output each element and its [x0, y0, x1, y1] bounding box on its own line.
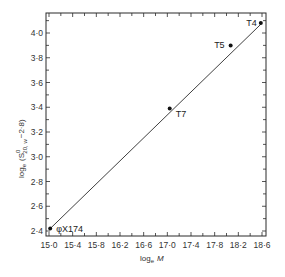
- x-tick-label: 18·6: [253, 240, 270, 250]
- point-label: T4: [246, 18, 257, 28]
- point-label: T7: [176, 109, 187, 119]
- x-tick-label: 15·0: [40, 240, 57, 250]
- y-tick-label: 2·8: [31, 177, 44, 187]
- point-label: T5: [214, 40, 225, 50]
- y-tick-label: 3·6: [31, 78, 44, 88]
- x-tick-label: 17·4: [182, 240, 199, 250]
- data-point: T5: [214, 40, 233, 50]
- point-label: φX174: [56, 224, 83, 234]
- point-marker: [48, 227, 52, 231]
- x-tick-label: 18·2: [230, 240, 247, 250]
- x-tick-label: 16·6: [135, 240, 152, 250]
- x-axis-label: logeM: [140, 254, 164, 264]
- data-point: T4: [246, 18, 263, 28]
- x-tick-label: 17·0: [159, 240, 176, 250]
- y-tick-labels: 2·42·62·83·03·23·43·63·84·0: [31, 28, 44, 236]
- y-tick-label: 3·8: [31, 53, 44, 63]
- y-tick-label: 2·6: [31, 201, 44, 211]
- point-marker: [168, 106, 172, 110]
- x-tick-label: 17·8: [206, 240, 223, 250]
- fit-line: [49, 23, 262, 230]
- x-tick-label: 16·2: [111, 240, 128, 250]
- x-tick-label: 15·8: [88, 240, 105, 250]
- x-tick-label: 15·4: [64, 240, 81, 250]
- x-tick-labels: 15·015·415·816·216·617·017·417·818·218·6: [40, 240, 270, 250]
- y-tick-label: 4·0: [31, 28, 44, 38]
- axis-ticks: [46, 13, 266, 236]
- plot-frame: [46, 13, 266, 236]
- y-tick-label: 3·0: [31, 152, 44, 162]
- y-tick-label: 2·4: [31, 226, 44, 236]
- y-axis-label: loge(S020, w−2·8): [15, 119, 28, 178]
- regression-line: [49, 23, 262, 230]
- point-marker: [259, 21, 263, 25]
- point-marker: [229, 43, 233, 47]
- y-tick-label: 3·2: [31, 127, 44, 137]
- y-tick-label: 3·4: [31, 102, 44, 112]
- scatter-chart: 15·015·415·816·216·617·017·417·818·218·6…: [0, 0, 285, 277]
- data-point: T7: [168, 106, 187, 119]
- plot-border: [46, 13, 266, 236]
